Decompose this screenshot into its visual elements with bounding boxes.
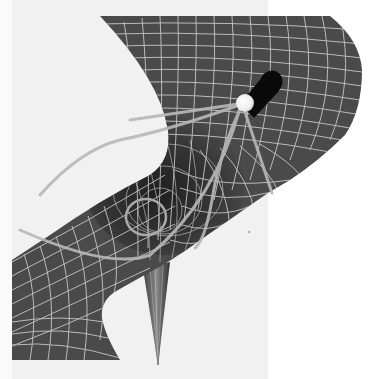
spacetime-sheet xyxy=(12,16,362,360)
light-source-sphere xyxy=(236,94,254,112)
funnel-spike xyxy=(143,262,170,365)
spacetime-illustration xyxy=(0,0,378,379)
figure-canvas xyxy=(0,0,378,379)
speck xyxy=(248,231,250,233)
